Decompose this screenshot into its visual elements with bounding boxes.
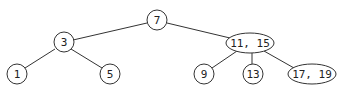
node-7: 7 [147, 10, 167, 30]
edge-11-15-9 [212, 51, 237, 68]
node-3: 3 [54, 32, 74, 52]
node-label: 1 [14, 68, 21, 81]
node-label: 11, 15 [230, 37, 270, 50]
node-label: 13 [246, 68, 259, 81]
node-label: 3 [61, 36, 68, 49]
node-1: 1 [7, 64, 27, 84]
node-label: 9 [201, 68, 208, 81]
node-label: 7 [154, 14, 161, 27]
edge-11-15-17-19 [264, 51, 294, 68]
node-label: 5 [107, 68, 114, 81]
node-11-15: 11, 15 [226, 33, 274, 53]
node-9: 9 [194, 64, 214, 84]
edge-7-11-15 [167, 23, 230, 38]
edge-7-3 [73, 23, 147, 40]
tree-diagram: 7 3 11, 15 1 5 9 13 17, 19 [0, 0, 356, 97]
node-17-19: 17, 19 [288, 64, 336, 84]
node-13: 13 [243, 64, 263, 84]
edge-3-1 [25, 49, 55, 68]
node-label: 17, 19 [292, 68, 332, 81]
node-5: 5 [100, 64, 120, 84]
edge-3-5 [71, 49, 102, 68]
